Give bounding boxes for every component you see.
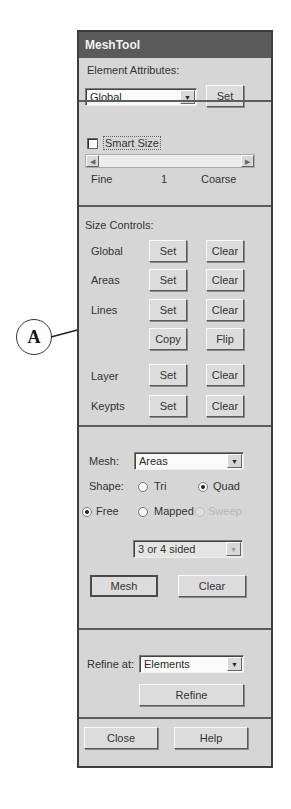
refine-at-value: Elements xyxy=(144,658,190,670)
size-keypts-set-button[interactable]: Set xyxy=(149,395,187,417)
scroll-right-icon[interactable]: ▶ xyxy=(241,155,254,167)
method-mapped-label[interactable]: Mapped xyxy=(154,505,194,517)
size-lines-flip-button[interactable]: Flip xyxy=(206,328,244,350)
size-areas-set-button[interactable]: Set xyxy=(149,269,187,291)
mesh-label: Mesh: xyxy=(89,455,119,467)
scroll-left-icon[interactable]: ◀ xyxy=(86,155,99,167)
size-global-label: Global xyxy=(91,245,123,257)
size-layer-set-button[interactable]: Set xyxy=(149,364,187,386)
size-layer-clear-button[interactable]: Clear xyxy=(206,364,244,386)
size-global-clear-button[interactable]: Clear xyxy=(206,240,244,262)
mesh-entity-value: Areas xyxy=(139,455,168,467)
size-lines-clear-button[interactable]: Clear xyxy=(206,299,244,321)
size-layer-label: Layer xyxy=(91,370,119,382)
size-keypts-clear-button[interactable]: Clear xyxy=(206,395,244,417)
method-free-label[interactable]: Free xyxy=(96,505,119,517)
shape-quad-radio[interactable] xyxy=(198,482,208,492)
dropdown-arrow-icon[interactable]: ▼ xyxy=(227,454,242,468)
method-mapped-radio[interactable] xyxy=(138,507,148,517)
refine-at-combo[interactable]: Elements ▼ xyxy=(139,655,244,673)
shape-quad-label[interactable]: Quad xyxy=(213,480,240,492)
mesh-clear-button[interactable]: Clear xyxy=(178,575,246,597)
size-controls-label: Size Controls: xyxy=(85,219,153,231)
mapped-sides-value: 3 or 4 sided xyxy=(138,543,195,555)
smart-size-divider xyxy=(79,100,271,132)
help-button[interactable]: Help xyxy=(174,727,248,749)
size-lines-set-button[interactable]: Set xyxy=(149,299,187,321)
meshtool-dialog: MeshTool Element Attributes: Global ▼ Se… xyxy=(77,30,273,768)
size-lines-copy-button[interactable]: Copy xyxy=(149,328,187,350)
mesh-divider xyxy=(79,425,271,428)
method-sweep-label: Sweep xyxy=(208,505,242,517)
shape-tri-radio[interactable] xyxy=(138,482,148,492)
refine-divider xyxy=(79,628,271,631)
dropdown-arrow-icon[interactable]: ▼ xyxy=(227,657,242,671)
size-controls-divider xyxy=(79,205,271,208)
slider-coarse-label: Coarse xyxy=(201,173,236,185)
mapped-sides-combo: 3 or 4 sided ▼ xyxy=(133,540,243,558)
refine-button[interactable]: Refine xyxy=(139,684,244,706)
smart-size-label[interactable]: Smart Size xyxy=(103,136,161,150)
footer-divider xyxy=(79,717,271,720)
shape-tri-label[interactable]: Tri xyxy=(154,480,166,492)
shape-label: Shape: xyxy=(89,480,124,492)
size-global-set-button[interactable]: Set xyxy=(149,240,187,262)
title-bar[interactable]: MeshTool xyxy=(79,32,271,58)
smart-size-slider[interactable]: ◀ ▶ xyxy=(85,154,255,168)
slider-fine-label: Fine xyxy=(91,173,112,185)
size-areas-label: Areas xyxy=(91,274,120,286)
size-areas-clear-button[interactable]: Clear xyxy=(206,269,244,291)
size-lines-label: Lines xyxy=(91,304,117,316)
method-sweep-radio xyxy=(195,507,205,517)
slider-value: 1 xyxy=(161,173,167,185)
element-attributes-label: Element Attributes: xyxy=(87,64,179,76)
close-button[interactable]: Close xyxy=(84,727,158,749)
mesh-entity-combo[interactable]: Areas ▼ xyxy=(134,452,244,470)
smart-size-checkbox[interactable] xyxy=(87,138,98,149)
size-keypts-label: Keypts xyxy=(91,400,125,412)
method-free-radio[interactable] xyxy=(82,507,92,517)
refine-at-label: Refine at: xyxy=(87,658,134,670)
mesh-button[interactable]: Mesh xyxy=(90,575,158,597)
dropdown-arrow-icon: ▼ xyxy=(226,542,241,556)
